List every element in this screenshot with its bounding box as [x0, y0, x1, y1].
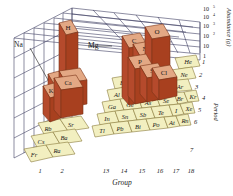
period-4: 4 [202, 94, 206, 101]
ztick-1e2: 10 [203, 33, 209, 39]
cell-label-Ba: Ba [60, 134, 67, 141]
group-axis-left: 1 2 [38, 167, 64, 174]
callout-label-Na: Na [14, 40, 23, 49]
ztick-1e3: 10 [203, 23, 209, 29]
chart-svg: Rb Sr Cs Ba Fr Ra [0, 0, 233, 196]
cell-label-Rb: Rb [43, 125, 52, 132]
period-1: 1 [202, 58, 205, 65]
callout-label-Mg: Mg [88, 41, 99, 50]
group-axis-title: Group [112, 178, 132, 187]
cell-label-Br: Br [177, 95, 184, 102]
cell-label-He: He [183, 58, 192, 65]
svg-text:5: 5 [213, 4, 215, 9]
group-14: 14 [121, 167, 128, 174]
ztick-1e5: 10 [203, 6, 209, 12]
cell-label-In: In [103, 115, 109, 122]
cell-label-Rn: Rn [180, 117, 188, 124]
bar-label-Ca: Ca [64, 79, 71, 86]
svg-text:2: 2 [213, 31, 215, 36]
bar-label-O: O [154, 28, 159, 36]
period-3: 3 [194, 83, 199, 90]
cell-label-Fr: Fr [30, 151, 38, 158]
group-axis-right: 13 14 15 16 17 18 [103, 167, 195, 174]
period-7: 7 [190, 146, 194, 153]
cell-label-Kr: Kr [189, 93, 197, 100]
cell-label-Ra: Ra [52, 147, 60, 154]
group-17: 17 [173, 167, 180, 174]
ztick-1e4: 10 [203, 14, 209, 20]
svg-text:4: 4 [213, 12, 215, 17]
group-1: 1 [38, 167, 41, 174]
abundance-axis-title: Abundance (g) [225, 7, 233, 46]
figure-3d-periodic-abundance: Rb Sr Cs Ba Fr Ra [0, 0, 233, 196]
cell-label-Al: Al [113, 91, 120, 98]
cell-label-Xe: Xe [185, 105, 193, 112]
cell-label-Sb: Sb [140, 111, 147, 118]
group-15: 15 [139, 167, 146, 174]
group-13: 13 [103, 167, 110, 174]
cell-label-Po: Po [151, 121, 160, 128]
period-2: 2 [199, 71, 203, 78]
cell-label-Ne: Ne [179, 71, 187, 78]
period-5: 5 [198, 106, 202, 113]
cell-label-Bi: Bi [135, 123, 141, 130]
cell-label-Sr: Sr [68, 121, 74, 128]
abundance-axis: 10 5 10 4 10 3 10 2 10 1 [203, 4, 215, 59]
group-2: 2 [60, 167, 64, 174]
cell-label-At: At [168, 119, 175, 126]
bar-label-K: K [49, 87, 54, 94]
cell-label-Cs: Cs [38, 138, 45, 145]
period-axis-title: Period [213, 102, 220, 121]
group-16: 16 [157, 167, 164, 174]
cell-label-Te: Te [158, 109, 164, 116]
bar-label-Cl: Cl [161, 69, 168, 77]
cell-label-Ga: Ga [108, 103, 116, 110]
ztick-10: 10 [203, 43, 209, 49]
period-6: 6 [194, 118, 198, 125]
cell-label-Sn: Sn [122, 113, 129, 120]
svg-text:3: 3 [213, 21, 215, 26]
group-18: 18 [188, 167, 195, 174]
bar-label-H: H [65, 24, 70, 32]
cell-label-Pb: Pb [115, 125, 124, 132]
cell-label-Tl: Tl [99, 127, 105, 134]
